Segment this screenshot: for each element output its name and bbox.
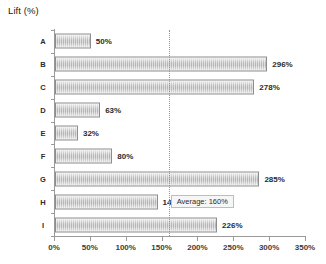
- bar-row: B296%: [0, 53, 326, 76]
- bar-value-label: 226%: [222, 220, 242, 229]
- bar-e[interactable]: [55, 125, 78, 140]
- bar-c[interactable]: [55, 80, 254, 95]
- bar-value-label: 32%: [83, 128, 99, 137]
- y-tick-mark: [51, 236, 55, 237]
- category-label: G: [36, 174, 50, 183]
- bar-value-label: 50%: [96, 37, 112, 46]
- bar-d[interactable]: [55, 103, 100, 118]
- bar-value-label: 278%: [259, 83, 279, 92]
- bar-row: E32%: [0, 122, 326, 145]
- bar-row: F80%: [0, 144, 326, 167]
- category-label: B: [36, 60, 50, 69]
- x-tick-label: 300%: [259, 243, 279, 252]
- bar-a[interactable]: [55, 34, 91, 49]
- bar-row: G285%: [0, 167, 326, 190]
- category-label: H: [36, 197, 50, 206]
- bar-row: I226%: [0, 213, 326, 236]
- x-tick-mark: [54, 237, 55, 241]
- bar-row: H143%: [0, 190, 326, 213]
- x-tick-mark: [90, 237, 91, 241]
- x-tick-label: 250%: [223, 243, 243, 252]
- average-reference-line: [169, 30, 170, 236]
- bar-value-label: 285%: [264, 174, 284, 183]
- x-tick-label: 150%: [151, 243, 171, 252]
- bar-row: C278%: [0, 76, 326, 99]
- x-tick-mark: [269, 237, 270, 241]
- x-tick-label: 100%: [115, 243, 135, 252]
- x-tick-mark: [233, 237, 234, 241]
- bar-row: A50%: [0, 30, 326, 53]
- category-label: E: [36, 128, 50, 137]
- x-tick-mark: [126, 237, 127, 241]
- x-tick-mark: [162, 237, 163, 241]
- lift-bar-chart: Lift (%) 0%50%100%150%200%250%300%350% A…: [0, 0, 326, 264]
- category-label: C: [36, 83, 50, 92]
- bar-value-label: 63%: [105, 106, 121, 115]
- chart-title: Lift (%): [8, 5, 39, 16]
- bar-value-label: 296%: [272, 60, 292, 69]
- category-label: F: [36, 151, 50, 160]
- bar-g[interactable]: [55, 171, 259, 186]
- bar-row: D63%: [0, 99, 326, 122]
- x-tick-label: 0%: [48, 243, 60, 252]
- bar-value-label: 80%: [117, 151, 133, 160]
- x-tick-label: 50%: [82, 243, 98, 252]
- x-tick-mark: [305, 237, 306, 241]
- x-tick-label: 350%: [295, 243, 315, 252]
- category-label: I: [36, 220, 50, 229]
- category-label: A: [36, 37, 50, 46]
- bar-h[interactable]: [55, 194, 158, 209]
- x-tick-mark: [197, 237, 198, 241]
- average-callout-label: Average: 160%: [171, 195, 234, 209]
- bar-b[interactable]: [55, 57, 267, 72]
- bar-i[interactable]: [55, 217, 217, 232]
- bar-f[interactable]: [55, 148, 112, 163]
- category-label: D: [36, 106, 50, 115]
- x-tick-label: 200%: [187, 243, 207, 252]
